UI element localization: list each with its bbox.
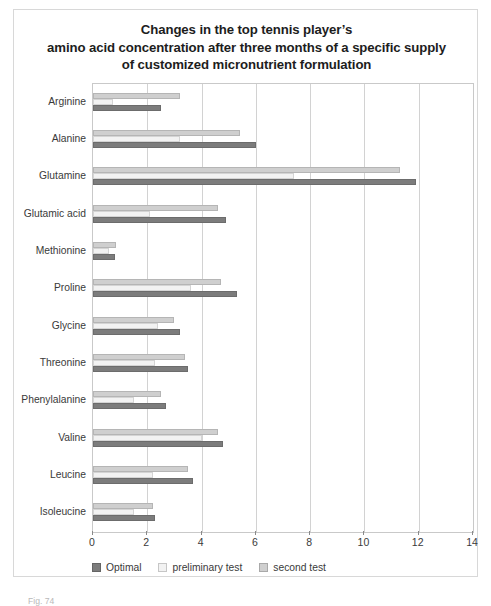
bar-optimal [93,515,155,521]
bar-optimal [93,478,193,484]
legend-label: preliminary test [172,562,242,573]
x-tick-label-6: 6 [252,536,258,548]
bar-group: Isoleucine [93,495,473,532]
category-label-valine: Valine [58,432,86,443]
x-tick-label-12: 12 [412,536,424,548]
bar-optimal [93,142,256,148]
legend-item-preliminary-test[interactable]: preliminary test [158,562,242,573]
legend-label: second test [273,562,326,573]
bar-optimal [93,291,237,297]
bar-group: Glutamic acid [93,196,473,233]
category-label-threonine: Threonine [40,357,86,368]
category-label-arginine: Arginine [48,96,86,107]
bar-group: Leucine [93,457,473,494]
bar-optimal [93,217,226,223]
figure-panel: Changes in the top tennis player’s amino… [13,9,478,577]
x-tick-label-14: 14 [466,536,478,548]
x-axis: 02468101214 [92,531,473,557]
bar-group: Proline [93,271,473,308]
bar-group: Alanine [93,121,473,158]
x-tick-label-2: 2 [143,536,149,548]
category-label-glycine: Glycine [52,320,86,331]
chart-title-line-1: Changes in the top tennis player’s [14,21,479,39]
category-label-proline: Proline [54,282,86,293]
bar-group: Methionine [93,233,473,270]
figure-caption: Fig. 74 [28,596,54,606]
bar-group: Glycine [93,308,473,345]
bar-optimal [93,179,416,185]
x-tick-label-10: 10 [358,536,370,548]
chart-title: Changes in the top tennis player’s amino… [14,21,479,74]
category-label-methionine: Methionine [36,245,86,256]
bar-optimal [93,254,115,260]
x-tick-label-8: 8 [306,536,312,548]
legend-label: Optimal [106,562,141,573]
bar-optimal [93,441,223,447]
bar-group: Glutamine [93,159,473,196]
x-tick-12 [418,531,419,535]
chart-title-line-3: of customized micronutrient formulation [14,56,479,74]
category-label-isoleucine: Isoleucine [40,506,86,517]
bar-optimal [93,105,161,111]
bar-optimal [93,403,166,409]
bar-group: Valine [93,420,473,457]
legend-swatch-icon [158,563,167,572]
category-label-glutamic-acid: Glutamic acid [24,208,86,219]
legend-swatch-icon [259,563,268,572]
x-tick-6 [255,531,256,535]
x-tick-8 [309,531,310,535]
x-tick-2 [146,531,147,535]
x-tick-label-0: 0 [89,536,95,548]
category-label-leucine: Leucine [50,469,86,480]
bar-group: Phenylalanine [93,383,473,420]
x-tick-10 [363,531,364,535]
bar-optimal [93,366,188,372]
bar-optimal [93,329,180,335]
plot-area: ArginineAlanineGlutamineGlutamic acidMet… [92,83,474,533]
category-label-alanine: Alanine [52,133,86,144]
bar-group: Threonine [93,345,473,382]
legend-swatch-icon [92,563,101,572]
x-tick-0 [92,531,93,535]
x-tick-label-4: 4 [198,536,204,548]
chart-title-line-2: amino acid concentration after three mon… [14,39,479,57]
bar-group: Arginine [93,84,473,121]
legend-item-optimal[interactable]: Optimal [92,562,141,573]
x-tick-4 [201,531,202,535]
chart-legend: Optimalpreliminary testsecond test [92,559,326,575]
legend-item-second-test[interactable]: second test [259,562,326,573]
category-label-glutamine: Glutamine [39,170,86,181]
category-label-phenylalanine: Phenylalanine [21,394,86,405]
x-tick-14 [472,531,473,535]
